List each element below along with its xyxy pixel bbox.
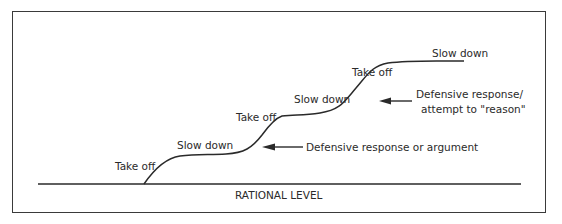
escalation-curve bbox=[144, 61, 464, 184]
defensive-reason-label-line2: attempt to "reason" bbox=[421, 103, 526, 115]
escalation-diagram: RATIONAL LEVEL Take off Slow down Take o… bbox=[0, 0, 562, 224]
lower-arrow-head-icon bbox=[262, 144, 275, 151]
defensive-reason-label-line1: Defensive response/ bbox=[416, 88, 523, 100]
take-off-label-2: Take off bbox=[235, 111, 277, 123]
slow-down-label-2: Slow down bbox=[294, 93, 350, 105]
take-off-label-3: Take off bbox=[351, 66, 393, 78]
take-off-label-1: Take off bbox=[114, 160, 156, 172]
slow-down-label-3: Slow down bbox=[432, 47, 488, 59]
upper-arrow-head-icon bbox=[379, 98, 391, 105]
defensive-response-label: Defensive response or argument bbox=[306, 141, 478, 153]
rational-level-label: RATIONAL LEVEL bbox=[235, 189, 323, 201]
slow-down-label-1: Slow down bbox=[177, 139, 233, 151]
